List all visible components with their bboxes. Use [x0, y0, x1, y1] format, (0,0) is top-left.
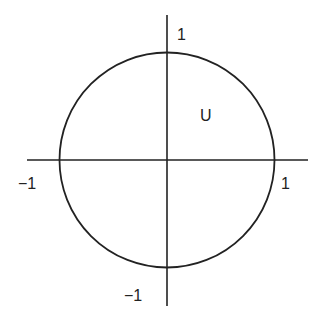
region-u-label: U: [200, 107, 212, 124]
x-left-label: −1: [18, 175, 36, 192]
y-top-label: 1: [177, 26, 186, 43]
x-right-label: 1: [281, 175, 290, 192]
unit-circle-diagram: 1 U −1 1 −1: [0, 0, 324, 324]
y-bottom-label: −1: [124, 287, 142, 304]
